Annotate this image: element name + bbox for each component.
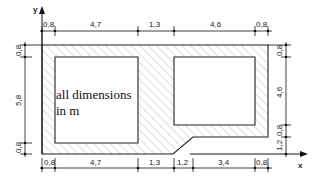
bottom-dim-1: 0,8 [44, 158, 56, 167]
top-dim-5: 0,8 [256, 20, 268, 29]
bottom-dim-5: 3,4 [218, 158, 230, 167]
top-dim-1: 0,8 [43, 20, 55, 29]
x-axis-label: x [298, 161, 303, 170]
right-dim-4: 1,2 [275, 139, 284, 151]
y-axis-label: y [33, 5, 38, 14]
right-dim-3: 0,8 [275, 124, 284, 136]
left-dim-1: 0,8 [14, 44, 23, 56]
cross-section-drawing: y x 0,8 4,7 1,3 4,6 0,8 0,8 4,7 1,3 [0, 0, 316, 179]
drawing-canvas: y x 0,8 4,7 1,3 4,6 0,8 0,8 4,7 1,3 [0, 0, 316, 179]
left-dimension-line [20, 42, 42, 157]
units-note-line2: in m [56, 103, 79, 118]
right-dimension-line [268, 42, 291, 157]
bottom-dim-3: 1,3 [149, 158, 161, 167]
bottom-dim-4: 1,2 [177, 158, 189, 167]
right-dim-1: 0,8 [275, 44, 284, 56]
x-axis [190, 151, 308, 157]
units-note-line1: all dimensions [56, 87, 131, 102]
top-dim-3: 1,3 [149, 20, 161, 29]
top-dim-2: 4,7 [90, 20, 102, 29]
left-dim-2: 5,8 [14, 94, 23, 106]
bottom-dim-2: 4,7 [90, 158, 102, 167]
left-dim-3: 0,8 [14, 141, 23, 153]
bottom-dim-6: 0,8 [256, 158, 268, 167]
right-dim-2: 4,6 [275, 86, 284, 98]
top-dim-4: 4,6 [210, 20, 222, 29]
